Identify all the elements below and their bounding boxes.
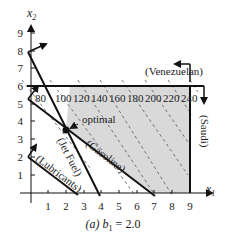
venezuelan-label: (Venezuelan) bbox=[145, 65, 203, 78]
svg-text:1: 1 bbox=[18, 169, 24, 181]
svg-text:2: 2 bbox=[18, 151, 24, 163]
lp-diagram: 1 2 3 4 5 6 7 8 9 1 2 3 4 5 6 7 8 9 x2 x… bbox=[0, 0, 226, 243]
svg-text:240: 240 bbox=[181, 92, 198, 104]
svg-text:100: 100 bbox=[55, 92, 72, 104]
svg-text:9: 9 bbox=[18, 27, 24, 39]
svg-text:7: 7 bbox=[151, 200, 157, 212]
x-axis-label: x1 bbox=[205, 182, 215, 198]
svg-text:8: 8 bbox=[169, 200, 175, 212]
svg-text:3: 3 bbox=[18, 133, 24, 145]
svg-text:6: 6 bbox=[134, 200, 140, 212]
svg-text:160: 160 bbox=[109, 92, 126, 104]
svg-text:4: 4 bbox=[98, 200, 104, 212]
svg-text:9: 9 bbox=[187, 200, 193, 212]
svg-text:7: 7 bbox=[18, 62, 24, 74]
y-axis-label: x2 bbox=[26, 6, 36, 22]
svg-text:5: 5 bbox=[116, 200, 122, 212]
svg-text:3: 3 bbox=[81, 200, 87, 212]
svg-text:6: 6 bbox=[18, 80, 24, 92]
svg-text:180: 180 bbox=[127, 92, 144, 104]
svg-text:4: 4 bbox=[18, 115, 24, 127]
svg-text:200: 200 bbox=[145, 92, 162, 104]
caption: (a) b1 = 2.0 bbox=[86, 217, 141, 233]
svg-text:120: 120 bbox=[73, 92, 90, 104]
optimal-point bbox=[63, 127, 70, 134]
svg-text:220: 220 bbox=[163, 92, 180, 104]
svg-text:1: 1 bbox=[45, 200, 51, 212]
svg-text:2: 2 bbox=[63, 200, 69, 212]
saudi-label: (Saudi) bbox=[198, 115, 211, 148]
svg-text:140: 140 bbox=[91, 92, 108, 104]
svg-text:8: 8 bbox=[18, 45, 24, 57]
svg-text:5: 5 bbox=[18, 98, 24, 110]
contour-labels: 80 100 120 140 160 180 200 220 240 bbox=[35, 92, 198, 104]
optimal-label: optimal bbox=[82, 113, 116, 125]
x-tick-labels: 1 2 3 4 5 6 7 8 9 bbox=[45, 200, 193, 212]
y-tick-labels: 1 2 3 4 5 6 7 8 9 bbox=[18, 27, 24, 181]
svg-text:80: 80 bbox=[35, 92, 47, 104]
